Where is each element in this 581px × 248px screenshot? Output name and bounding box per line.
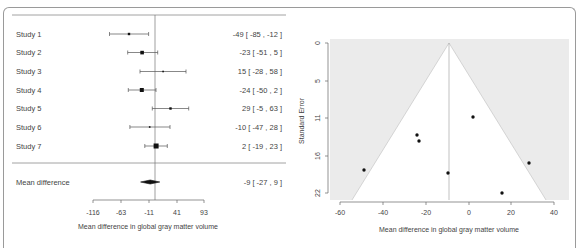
study-ci-text: -23 [ -51 , 5 ] bbox=[239, 48, 282, 57]
summary-label: Mean difference bbox=[16, 178, 70, 187]
study-ci-text: -49 [ -85 , -12 ] bbox=[233, 30, 282, 39]
study-label: Study 4 bbox=[16, 86, 41, 95]
study-point bbox=[154, 144, 159, 149]
x-tick-label: -40 bbox=[378, 209, 388, 216]
study-label: Study 7 bbox=[16, 142, 41, 151]
study-point bbox=[149, 126, 151, 128]
forest-x-axis-title: Mean difference in global gray matter vo… bbox=[78, 223, 218, 231]
funnel-point bbox=[415, 133, 418, 136]
forest-x-axis bbox=[93, 200, 204, 203]
y-tick-label: 5 bbox=[314, 79, 321, 83]
forest-plot: Study 1 Study 2 Study 3 Study 4 Study 5 … bbox=[12, 15, 286, 231]
study-ci-text: 15 [ -28 , 58 ] bbox=[238, 67, 282, 76]
funnel-x-axis bbox=[340, 202, 554, 205]
forest-markers bbox=[110, 32, 189, 149]
study-point bbox=[128, 33, 130, 35]
funnel-point bbox=[527, 161, 530, 164]
x-tick-label: -116 bbox=[86, 209, 100, 216]
study-point bbox=[162, 71, 164, 73]
study-label: Study 1 bbox=[16, 30, 41, 39]
x-tick-label: 0 bbox=[467, 209, 471, 216]
x-tick-label: 41 bbox=[173, 209, 181, 216]
x-tick-label: 20 bbox=[507, 209, 515, 216]
study-ci-text: -24 [ -50 , 2 ] bbox=[239, 86, 282, 95]
y-tick-label: 16 bbox=[314, 152, 321, 160]
x-tick-label: -20 bbox=[421, 209, 431, 216]
funnel-y-axis bbox=[325, 43, 328, 193]
study-label: Study 6 bbox=[16, 123, 41, 132]
funnel-y-axis-title: Standard Error bbox=[298, 97, 305, 144]
funnel-point bbox=[417, 139, 420, 142]
study-point bbox=[140, 88, 144, 92]
study-point bbox=[169, 107, 171, 109]
x-tick-label: -11 bbox=[144, 209, 154, 216]
x-tick-label: -63 bbox=[116, 209, 126, 216]
summary-ci-text: -9 [ -27 , 9 ] bbox=[244, 178, 282, 187]
study-ci-text: 29 [ -5 , 63 ] bbox=[242, 104, 282, 113]
study-label: Study 3 bbox=[16, 67, 41, 76]
funnel-point bbox=[362, 168, 365, 171]
x-tick-label: -60 bbox=[335, 209, 345, 216]
study-ci-text: -10 [ -47 , 28 ] bbox=[235, 123, 282, 132]
funnel-point bbox=[446, 171, 449, 174]
y-tick-label: 0 bbox=[314, 41, 321, 45]
summary-diamond bbox=[141, 180, 160, 184]
study-label: Study 5 bbox=[16, 104, 41, 113]
funnel-x-axis-title: Mean difference in global gray matter vo… bbox=[379, 226, 519, 234]
x-tick-label: 93 bbox=[200, 209, 208, 216]
study-label: Study 2 bbox=[16, 48, 41, 57]
funnel-plot: 0 5 11 16 22 Standard Error -60 -40 -20 … bbox=[298, 39, 569, 234]
funnel-point bbox=[471, 115, 474, 118]
funnel-point bbox=[500, 191, 503, 194]
y-tick-label: 22 bbox=[314, 189, 321, 197]
x-tick-label: 40 bbox=[550, 209, 558, 216]
study-ci-text: 2 [ -19 , 23 ] bbox=[242, 142, 282, 151]
y-tick-label: 11 bbox=[314, 114, 321, 121]
study-point bbox=[140, 51, 144, 55]
